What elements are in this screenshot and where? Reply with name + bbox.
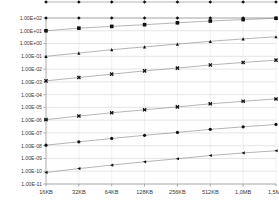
y-axis-tick-label: 1.00E-08 [21,143,42,149]
log-line-chart: 1.00E+021.00E+011.00E+001.00E-011.00E-02… [0,0,279,201]
x-axis-tick-label: 512KB [202,189,219,195]
gridlines: 1.00E+021.00E+011.00E+001.00E-011.00E-02… [20,15,276,187]
series-group [44,0,278,174]
data-point-marker-square [241,18,245,22]
x-axis-tick-label: 128KB [136,189,153,195]
data-point-marker-diamond [143,16,147,20]
data-point-marker-diamond [77,0,81,4]
data-point-marker-square [274,16,278,20]
data-point-marker-square [44,29,48,33]
x-axis-tick-label: 1,0MB [235,189,251,195]
data-point-marker-square [77,26,81,30]
series-diamond [44,0,278,4]
y-axis-tick-label: 1.00E+01 [20,28,42,34]
data-point-marker-diamond [44,0,48,4]
data-point-marker-diamond [44,16,48,20]
series-triangle [44,35,277,58]
y-axis-tick-label: 1.00E+00 [20,40,42,46]
data-point-marker-square [110,25,114,29]
series-left-triangle [44,149,277,174]
data-point-marker-diamond [176,16,180,20]
data-point-marker-diamond [143,0,147,4]
y-axis-tick-label: 1.00E+02 [20,15,42,21]
data-point-marker-circle [176,131,179,134]
x-axis-tick-label: 256KB [169,189,186,195]
data-point-marker-circle [110,137,113,140]
y-axis-tick-label: 1.00E-11 [21,181,42,187]
data-point-marker-square [176,21,180,25]
x-axis-tick-label: 32KB [72,189,86,195]
x-axis-tick-label: 1,5MB [268,189,279,195]
data-point-marker-circle [209,128,212,131]
series-cross [44,59,277,83]
data-point-marker-circle [274,123,277,126]
y-axis-tick-label: 1.00E-03 [21,79,42,85]
data-point-marker-diamond [176,0,180,4]
chart-container: 1.00E+021.00E+011.00E+001.00E-011.00E-02… [0,0,279,201]
series-circle [44,123,277,147]
data-point-marker-diamond [77,16,81,20]
data-point-marker-diamond [241,0,245,4]
series-asterisk [44,97,277,121]
series-line [46,37,276,57]
data-point-marker-circle [44,144,47,147]
data-point-marker-circle [242,125,245,128]
y-axis-tick-label: 1.00E-10 [21,168,42,174]
y-axis-tick-label: 1.00E-05 [21,104,42,110]
y-axis-tick-label: 1.00E-07 [21,130,42,136]
y-axis-tick-label: 1.00E-02 [21,66,42,72]
data-point-marker-diamond [274,0,278,4]
y-axis-tick-label: 1.00E-04 [21,92,42,98]
data-point-marker-diamond [208,0,212,4]
y-axis-tick-label: 1.00E-06 [21,117,42,123]
series-line [46,124,276,145]
data-point-marker-diamond [110,16,114,20]
series-line [46,99,276,120]
x-axis-tick-label: 64KB [105,189,119,195]
data-point-marker-diamond [110,0,114,4]
data-point-marker-circle [143,134,146,137]
data-point-marker-square [143,23,147,27]
data-point-marker-circle [77,140,80,143]
data-point-marker-square [208,19,212,23]
y-axis-tick-label: 1.00E-09 [21,155,42,161]
series-line [46,151,276,173]
x-axis-tick-label: 16KB [39,189,53,195]
y-axis-tick-label: 1.00E-01 [21,53,42,59]
